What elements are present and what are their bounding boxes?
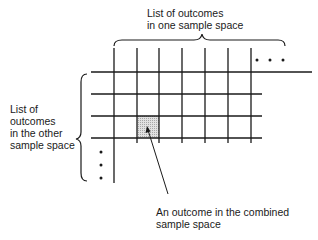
- top-label: List of outcomes in one sample space: [147, 7, 243, 31]
- top-brace: [114, 34, 285, 46]
- ellipsis-dots: [100, 59, 285, 180]
- highlighted-cell: [137, 116, 159, 138]
- left-label: List of outcomes in the other sample spa…: [10, 103, 75, 151]
- bottom-label: An outcome in the combined sample space: [156, 206, 289, 230]
- left-brace: [76, 74, 87, 181]
